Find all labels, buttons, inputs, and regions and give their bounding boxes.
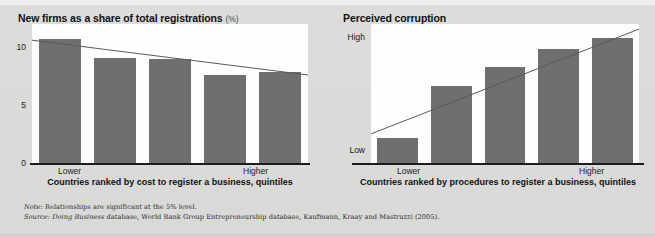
x-axis-title-left: Countries ranked by cost to register a b… [32,177,308,187]
figure-note-text: Relationships are significant at the 5% … [43,203,197,211]
y-axis-labels-left: 1050 [4,24,30,163]
chart-title-left-text: New firms as a share of total registrati… [18,12,223,24]
x-axis-line-right [352,163,644,165]
figure-canvas: New firms as a share of total registrati… [0,0,655,237]
x-axis-title-right: Countries ranked by procedures to regist… [352,177,644,187]
trendline-segment [32,40,308,75]
figure-source-prefix: Source: [24,213,50,221]
trendline-right [371,24,639,163]
chart-title-left: New firms as a share of total registrati… [18,12,238,24]
page-bottom-edge [0,233,655,237]
trendline-segment [371,29,639,134]
y-axis-tick-label: 0 [21,158,26,168]
trendline-left [32,24,308,163]
y-axis-tick-label: High [348,32,365,42]
x-axis-low-label-left: Lower [58,166,81,176]
figure-source-italic: Doing Business [50,213,104,221]
x-axis-low-label-right: Lower [397,166,420,176]
plot-area-right [371,24,639,163]
page-top-edge [0,0,655,5]
y-axis-tick-label: Low [349,145,365,155]
plot-area-left [32,24,308,163]
y-axis-labels-right: HighLow [337,24,369,163]
figure-note: Note: Relationships are significant at t… [24,203,197,211]
x-axis-line-left [30,163,310,165]
chart-title-left-unit: (%) [225,14,238,24]
x-axis-high-label-right: Higher [579,166,604,176]
figure-source: Source: Doing Business database, World B… [24,213,439,221]
y-axis-tick-label: 10 [17,42,26,52]
figure-note-prefix: Note: [24,203,43,211]
chart-title-right-text: Perceived corruption [343,12,446,24]
x-axis-high-label-left: Higher [243,166,268,176]
chart-title-right: Perceived corruption [343,12,446,24]
y-axis-tick-label: 5 [21,100,26,110]
figure-source-text: database, World Bank Group Entrepreneurs… [104,213,439,221]
